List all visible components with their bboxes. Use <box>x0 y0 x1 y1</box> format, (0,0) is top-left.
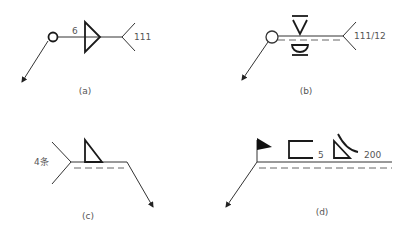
size-label: 5 <box>318 150 324 160</box>
field-weld-flag-icon <box>257 138 272 150</box>
figure-d: 5 200 (d) <box>226 134 392 217</box>
process-label: 111 <box>134 32 151 42</box>
v-weld-icon <box>293 20 307 34</box>
caption-c: (c) <box>82 211 94 221</box>
figure-c: 4条 (c) <box>34 140 153 221</box>
all-round-circle-icon <box>266 31 278 43</box>
arrow-line <box>242 42 268 80</box>
fillet-weld-triangle-icon <box>334 141 350 158</box>
count-label: 4条 <box>34 156 49 167</box>
process-label: 111/12 <box>354 31 386 41</box>
welding-symbols-diagram: 6 111 (a) 111/12 (b) 4条 (c) 5 <box>0 0 414 237</box>
arrow-line <box>226 162 257 207</box>
figure-b: 111/12 (b) <box>242 16 386 96</box>
caption-d: (d) <box>316 207 329 217</box>
caption-b: (b) <box>300 86 313 96</box>
convex-backing-icon <box>292 45 308 52</box>
length-label: 200 <box>364 150 381 160</box>
fillet-weld-triangle-icon <box>85 140 102 162</box>
square-groove-icon <box>289 141 313 158</box>
size-label: 6 <box>72 26 78 36</box>
arrow-line <box>127 162 153 207</box>
arrow-line <box>22 41 48 82</box>
tail-fork-icon <box>52 142 71 184</box>
all-round-circle-icon <box>49 33 58 42</box>
figure-a: 6 111 (a) <box>22 22 151 96</box>
caption-a: (a) <box>79 86 92 96</box>
